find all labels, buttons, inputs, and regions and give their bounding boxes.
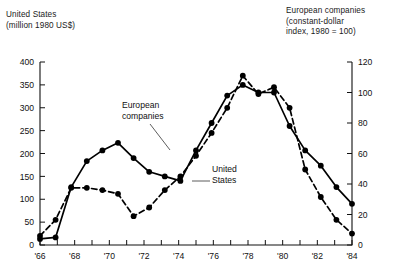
right-axis-tick-label: 0	[358, 240, 363, 250]
data-point	[209, 120, 215, 126]
right-axis-tick-label: 80	[358, 118, 368, 128]
left-axis-tick-label: 0	[29, 240, 34, 250]
left-axis-tick-label: 150	[20, 172, 35, 182]
data-point	[53, 235, 59, 241]
x-axis-tick-label: '76	[208, 251, 219, 261]
data-point	[193, 148, 199, 154]
right-axis-tick-label: 100	[358, 88, 373, 98]
data-point	[100, 148, 106, 154]
data-point	[115, 191, 121, 197]
data-point	[318, 163, 324, 169]
data-point	[178, 174, 184, 180]
left-axis-tick-label: 400	[20, 57, 35, 67]
left-axis-tick-label: 250	[20, 126, 35, 136]
data-point	[146, 169, 152, 175]
data-point	[334, 217, 340, 223]
chart-plot-area: 050100150200250300350400020406080100120'…	[0, 0, 407, 279]
x-axis-tick-label: '80	[277, 251, 288, 261]
left-axis-tick-label: 350	[20, 80, 35, 90]
data-point	[100, 187, 106, 193]
data-point	[287, 123, 293, 129]
left-axis-tick-label: 300	[20, 103, 35, 113]
data-point	[224, 105, 230, 111]
european-companies-label: Europeancompanies	[122, 100, 164, 121]
data-point	[53, 217, 59, 223]
data-point	[162, 174, 168, 180]
data-point	[302, 167, 308, 173]
data-point	[349, 231, 355, 237]
data-point	[146, 205, 152, 211]
united-states-label: UnitedStates	[212, 164, 237, 185]
data-point	[287, 105, 293, 111]
data-point	[271, 84, 277, 90]
x-axis-tick-label: '72	[138, 251, 149, 261]
left-axis-tick-label: 200	[20, 149, 35, 159]
data-point	[162, 187, 168, 193]
chart-figure: United States (million 1980 US$) Europea…	[0, 0, 407, 279]
data-point	[131, 213, 137, 219]
data-point	[131, 155, 137, 161]
data-point	[193, 153, 199, 159]
data-point	[68, 185, 74, 191]
data-point	[240, 82, 246, 88]
x-axis-tick-label: '82	[312, 251, 323, 261]
x-axis-tick-label: '66	[34, 251, 45, 261]
x-axis-tick-label: '84	[346, 251, 357, 261]
x-axis-tick-label: '74	[173, 251, 184, 261]
data-point	[256, 91, 262, 97]
right-axis-tick-label: 60	[358, 149, 368, 159]
data-point	[209, 130, 215, 136]
european-companies-label-leader	[150, 124, 170, 150]
data-point	[302, 148, 308, 154]
data-point	[37, 233, 43, 239]
data-point	[334, 184, 340, 190]
data-point	[224, 93, 230, 99]
data-point	[240, 73, 246, 79]
data-point	[318, 194, 324, 200]
right-axis-tick-label: 40	[358, 179, 368, 189]
data-point	[115, 140, 121, 146]
left-axis-tick-label: 50	[24, 217, 34, 227]
data-point	[349, 201, 355, 207]
right-axis-tick-label: 20	[358, 210, 368, 220]
right-axis-tick-label: 120	[358, 57, 373, 67]
data-point	[84, 185, 90, 191]
data-point	[84, 158, 90, 164]
left-axis-tick-label: 100	[20, 194, 35, 204]
x-axis-tick-label: '78	[242, 251, 253, 261]
x-axis-tick-label: '70	[104, 251, 115, 261]
x-axis-tick-label: '68	[69, 251, 80, 261]
